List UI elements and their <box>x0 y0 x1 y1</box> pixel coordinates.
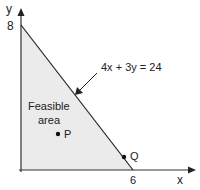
x-intercept-label: 6 <box>130 175 136 186</box>
region-label-line1: Feasible <box>28 101 70 112</box>
pointer-arrow-shaft <box>79 73 97 91</box>
point-q-dot <box>122 155 126 159</box>
y-axis-arrow-icon <box>18 8 25 16</box>
region-label-line2: area <box>38 115 60 126</box>
y-intercept-label: 8 <box>7 20 14 32</box>
diagram-canvas <box>0 0 200 190</box>
constraint-equation: 4x + 3y = 24 <box>101 62 162 73</box>
point-p-label: P <box>64 129 71 140</box>
x-axis-label: x <box>177 174 183 186</box>
x-axis-arrow-icon <box>188 167 196 174</box>
y-axis-label: y <box>6 3 12 15</box>
point-p-dot <box>56 132 60 136</box>
point-q-label: Q <box>130 151 139 162</box>
